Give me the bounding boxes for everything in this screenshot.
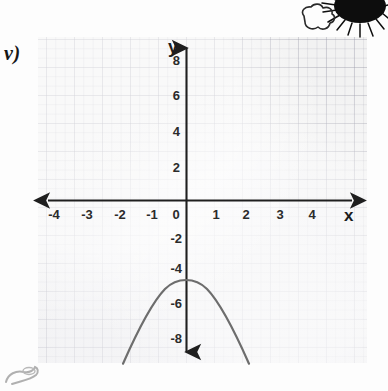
worksheet-page: v) -4 -3 -2 -1 0 1 2 3 4 8 (0, 0, 388, 391)
y-tick-label-neg2: -2 (170, 232, 182, 245)
x-tick-label-1: 1 (212, 208, 219, 221)
coordinate-plane-plot (0, 0, 388, 391)
x-tick-label-2: 2 (242, 208, 249, 221)
x-axis-label: x (344, 207, 353, 224)
y-tick-label-4: 4 (173, 125, 180, 138)
y-tick-label-neg4: -4 (170, 262, 182, 275)
x-tick-label-3: 3 (276, 208, 283, 221)
y-tick-label-neg8: -8 (170, 332, 182, 345)
x-tick-label-0: 0 (172, 208, 179, 221)
x-tick-label-4: 4 (308, 208, 315, 221)
x-tick-label-neg4: -4 (48, 208, 60, 221)
x-tick-label-neg2: -2 (114, 208, 126, 221)
y-tick-label-neg6: -6 (170, 297, 182, 310)
y-tick-label-2: 2 (173, 161, 180, 174)
x-tick-label-neg1: -1 (146, 208, 158, 221)
x-tick-label-neg3: -3 (81, 208, 93, 221)
y-axis-label: y (168, 38, 178, 56)
y-tick-label-6: 6 (173, 89, 180, 102)
